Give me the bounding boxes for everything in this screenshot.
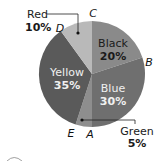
label-black-pct: 20% [100, 50, 126, 63]
point-c: C [89, 7, 97, 20]
label-green-pct: 5% [128, 137, 147, 150]
label-blue-name: Blue [101, 82, 126, 95]
label-yellow-name: Yellow [49, 66, 84, 79]
label-red-pct: 10% [25, 21, 51, 34]
point-a: A [85, 128, 94, 141]
label-yellow-pct: 35% [54, 79, 80, 92]
red-callout-dot [76, 31, 79, 34]
point-d: D [56, 22, 64, 35]
label-blue-pct: 30% [100, 95, 126, 108]
pie-chart: Black 20% Blue 30% Yellow 35% Red 10% Gr… [0, 0, 159, 161]
label-red-name: Red [27, 8, 48, 21]
point-e: E [68, 127, 75, 140]
green-callout-dot [80, 118, 83, 121]
cropped-arc-fragment [7, 158, 22, 162]
label-black-name: Black [98, 37, 128, 50]
point-b: B [145, 56, 153, 69]
